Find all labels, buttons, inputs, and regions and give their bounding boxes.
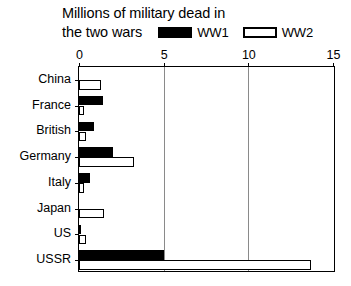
- x-tick-mark-5: [164, 63, 165, 67]
- legend-label-ww1: WW1: [197, 26, 228, 39]
- x-tick-label-5: 5: [161, 48, 168, 62]
- legend-label-ww2: WW2: [282, 26, 313, 39]
- y-tick-mark-germany: [75, 157, 79, 158]
- bar-ww1-italy: [79, 173, 90, 183]
- chart-title-block: Millions of military dead in the two war…: [62, 4, 351, 42]
- bar-ww2-china: [79, 80, 101, 90]
- x-tick-mark-10: [248, 63, 249, 67]
- y-axis-label-british: British: [36, 123, 71, 137]
- bar-row: [79, 93, 334, 119]
- bar-rows: [79, 67, 334, 271]
- title-legend-row: the two wars WW1 WW2: [62, 23, 351, 42]
- legend-entry-ww2: WW2: [243, 26, 313, 39]
- military-dead-bar-chart: Millions of military dead in the two war…: [0, 0, 351, 286]
- x-tick-mark-0: [79, 63, 80, 67]
- y-tick-mark-italy: [75, 183, 79, 184]
- x-tick-label-15: 15: [327, 48, 341, 62]
- white-outlined-swatch-icon: [243, 27, 277, 38]
- bar-ww1-us: [79, 225, 81, 235]
- y-axis-label-us: US: [54, 226, 71, 240]
- bar-ww2-france: [79, 106, 84, 116]
- bar-ww2-japan: [79, 209, 104, 219]
- bar-row: [79, 144, 334, 170]
- y-tick-mark-japan: [75, 209, 79, 210]
- page-title-line-2: the two wars: [62, 23, 142, 42]
- x-tick-mark-15: [333, 63, 334, 67]
- y-axis-label-ussr: USSR: [36, 252, 71, 266]
- black-filled-swatch-icon: [158, 27, 192, 38]
- bar-row: [79, 170, 334, 196]
- y-tick-mark-china: [75, 80, 79, 81]
- plot-area: [78, 66, 335, 272]
- bar-ww1-germany: [79, 147, 113, 157]
- x-tick-label-10: 10: [242, 48, 256, 62]
- page-title-line-1: Millions of military dead in: [62, 4, 351, 23]
- bar-row: [79, 119, 334, 145]
- x-tick-label-0: 0: [76, 48, 83, 62]
- y-axis-label-china: China: [38, 72, 71, 86]
- y-tick-mark-us: [75, 234, 79, 235]
- chart-legend: WW1 WW2: [158, 26, 313, 39]
- y-axis-label-germany: Germany: [20, 149, 71, 163]
- y-tick-mark-france: [75, 106, 79, 107]
- bar-ww2-ussr: [79, 260, 311, 270]
- y-axis-label-japan: Japan: [37, 201, 71, 215]
- bar-ww2-italy: [79, 183, 84, 193]
- y-axis-label-italy: Italy: [48, 175, 71, 189]
- bar-ww2-germany: [79, 157, 134, 167]
- bar-ww2-british: [79, 132, 86, 142]
- x-axis-tick-labels: 051015: [0, 48, 351, 64]
- y-tick-mark-british: [75, 131, 79, 132]
- bar-row: [79, 222, 334, 248]
- bar-row: [79, 67, 334, 93]
- bar-ww1-france: [79, 96, 103, 106]
- bar-ww1-ussr: [79, 250, 164, 260]
- bar-row: [79, 196, 334, 222]
- bar-ww1-british: [79, 122, 94, 132]
- y-axis-category-labels: ChinaFranceBritishGermanyItalyJapanUSUSS…: [0, 66, 76, 272]
- bar-ww2-us: [79, 235, 86, 245]
- y-axis-label-france: France: [32, 98, 71, 112]
- y-tick-mark-ussr: [75, 260, 79, 261]
- legend-entry-ww1: WW1: [158, 26, 228, 39]
- bar-row: [79, 247, 334, 273]
